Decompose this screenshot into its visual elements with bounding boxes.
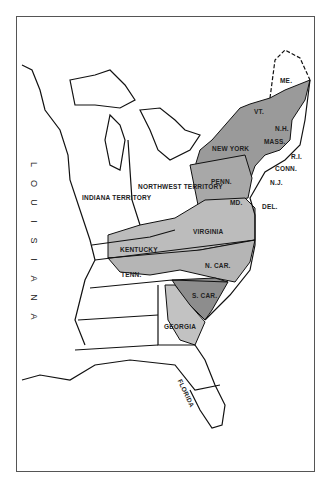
- label-south-carolina: S. CAR.: [192, 292, 217, 299]
- letter: N: [24, 292, 43, 304]
- label-tennessee: TENN.: [121, 271, 142, 278]
- label-north-carolina: N. CAR.: [205, 262, 231, 269]
- label-kentucky: KENTUCKY: [120, 246, 158, 253]
- label-georgia: GEORGIA: [164, 323, 196, 330]
- letter: I: [24, 254, 43, 266]
- map-border-full: [16, 16, 317, 244]
- letter: A: [24, 273, 43, 285]
- letter: A: [24, 311, 43, 323]
